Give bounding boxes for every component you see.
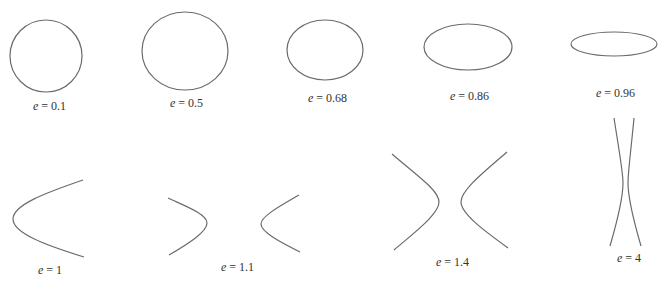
ellipse-e-0.68 [287,20,363,80]
variable-e: e [596,86,601,100]
parabola-e-1 [13,180,84,257]
ellipse-e-0.1 [10,20,82,92]
variable-e: e [617,251,622,265]
label-e-1: e = 1 [38,263,62,278]
label-e-1.4: e = 1.4 [436,255,469,270]
conic-sections-figure [0,0,665,285]
ellipse-e-0.96 [571,32,657,56]
hyperbola-e-1.4-right-branch [461,152,508,248]
variable-e: e [436,255,441,269]
ellipse-e-0.86 [424,24,512,70]
variable-e: e [170,96,175,110]
variable-e: e [308,91,313,105]
label-e-0.96: e = 0.96 [596,86,635,101]
label-e-0.68: e = 0.68 [308,91,347,106]
label-e-0.1: e = 0.1 [33,99,66,114]
hyperbola-e-4-right-branch [628,118,641,246]
label-e-4: e = 4 [617,251,641,266]
variable-e: e [450,89,455,103]
hyperbola-e-1.1-right-branch [261,195,300,252]
hyperbola-e-1.4-left-branch [392,154,439,250]
variable-e: e [33,99,38,113]
ellipse-e-0.5 [142,12,228,90]
variable-e: e [38,263,43,277]
hyperbola-e-1.1-left-branch [168,198,207,255]
hyperbola-e-4-left-branch [610,118,623,246]
label-e-0.86: e = 0.86 [450,89,489,104]
variable-e: e [221,260,226,274]
label-e-0.5: e = 0.5 [170,96,203,111]
label-e-1.1: e = 1.1 [221,260,254,275]
